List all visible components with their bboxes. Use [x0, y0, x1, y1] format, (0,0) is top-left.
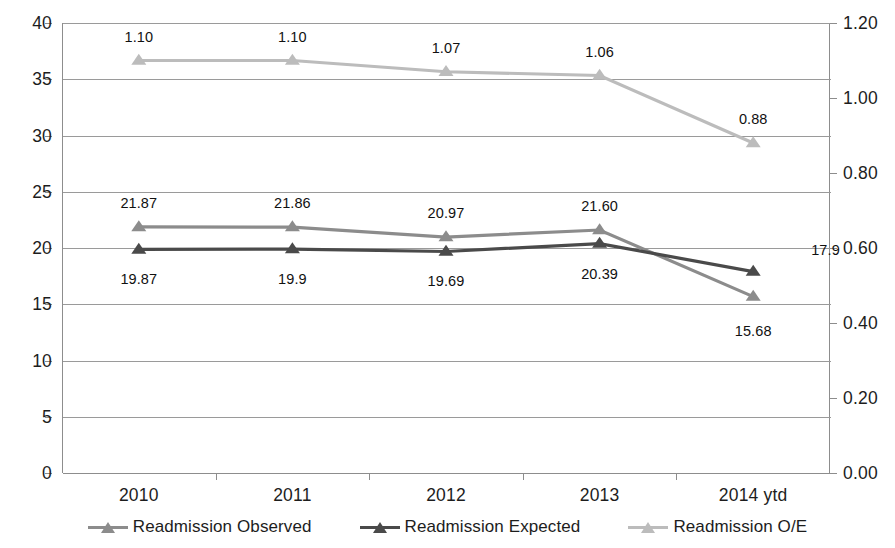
x-tick-mark	[369, 473, 370, 480]
right-axis-tick-label: 0.20	[843, 388, 878, 409]
legend-triangle-icon	[101, 522, 115, 533]
right-axis-tick-label: 0.80	[843, 163, 878, 184]
plot-area	[62, 23, 830, 473]
left-axis-tick-label: 40	[8, 13, 52, 34]
right-axis-tick-label: 1.00	[843, 88, 878, 109]
gridline	[63, 248, 831, 249]
gridline	[63, 192, 831, 193]
right-axis-tick-label: 1.20	[843, 13, 878, 34]
data-point-label: 20.97	[428, 205, 465, 221]
x-axis-tick-label: 2011	[273, 485, 311, 506]
x-tick-mark	[216, 473, 217, 480]
legend-triangle-icon	[641, 522, 655, 533]
legend-marker-icon	[360, 519, 400, 535]
readmission-line-chart: 0510152025303540 0.000.200.400.600.801.0…	[0, 0, 895, 548]
legend-label: Readmission Expected	[405, 517, 581, 537]
right-tick-mark	[830, 98, 837, 99]
gridline	[63, 23, 831, 24]
data-point-label: 20.39	[581, 266, 618, 282]
left-axis: 0510152025303540	[0, 23, 52, 473]
data-point-label: 15.68	[735, 323, 772, 339]
x-axis-tick-label: 2010	[119, 485, 159, 506]
gridline	[63, 417, 831, 418]
right-tick-mark	[830, 473, 837, 474]
x-axis-tick-label: 2012	[426, 485, 466, 506]
x-tick-mark	[676, 473, 677, 480]
data-point-label: 1.07	[432, 40, 461, 56]
data-point-label: 21.86	[274, 195, 311, 211]
gridline	[63, 136, 831, 137]
chart-legend: Readmission ObservedReadmission Expected…	[0, 512, 895, 542]
left-axis-tick-label: 10	[8, 351, 52, 372]
left-axis-tick-label: 20	[8, 238, 52, 259]
legend-marker-icon	[88, 519, 128, 535]
data-point-label: 19.87	[120, 271, 157, 287]
right-tick-mark	[830, 173, 837, 174]
gridline	[63, 304, 831, 305]
x-tick-mark	[523, 473, 524, 480]
x-axis-tick-label: 2013	[580, 485, 620, 506]
right-tick-mark	[830, 398, 837, 399]
legend-triangle-icon	[373, 522, 387, 533]
legend-marker-icon	[628, 519, 668, 535]
data-point-label: 19.69	[428, 273, 465, 289]
legend-item[interactable]: Readmission Expected	[360, 517, 581, 537]
left-axis-tick-label: 15	[8, 294, 52, 315]
data-point-label: 21.87	[120, 195, 157, 211]
left-axis-tick-label: 30	[8, 126, 52, 147]
data-point-label: 21.60	[581, 198, 618, 214]
right-tick-mark	[830, 23, 837, 24]
data-point-label: 0.88	[739, 111, 768, 127]
gridline	[63, 79, 831, 80]
data-point-label: 17.9	[811, 242, 840, 258]
x-axis: 20102011201220132014 ytd	[62, 473, 830, 509]
left-axis-tick-label: 25	[8, 182, 52, 203]
right-axis-tick-label: 0.60	[843, 238, 878, 259]
right-tick-mark	[830, 323, 837, 324]
x-axis-tick-label: 2014 ytd	[719, 485, 788, 506]
data-point-label: 1.06	[585, 44, 614, 60]
right-axis-tick-label: 0.40	[843, 313, 878, 334]
legend-label: Readmission Observed	[133, 517, 312, 537]
legend-item[interactable]: Readmission O/E	[628, 517, 807, 537]
left-axis-tick-label: 0	[8, 463, 52, 484]
gridline	[63, 361, 831, 362]
data-point-label: 19.9	[278, 271, 307, 287]
data-point-label: 1.10	[278, 29, 307, 45]
left-axis-tick-label: 35	[8, 69, 52, 90]
right-axis-tick-label: 0.00	[843, 463, 878, 484]
legend-item[interactable]: Readmission Observed	[88, 517, 312, 537]
left-axis-tick-label: 5	[8, 407, 52, 428]
legend-label: Readmission O/E	[673, 517, 807, 537]
data-point-label: 1.10	[124, 29, 153, 45]
